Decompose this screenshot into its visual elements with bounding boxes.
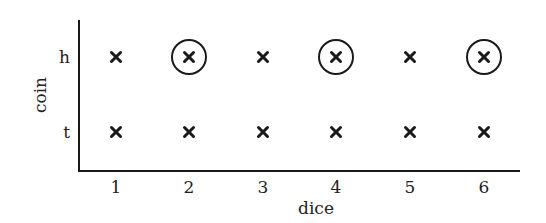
data-point-3-h bbox=[259, 53, 268, 62]
x-tick-6: 6 bbox=[479, 179, 490, 196]
data-points bbox=[112, 40, 502, 137]
data-point-1-h bbox=[112, 53, 121, 62]
data-point-1-t bbox=[112, 128, 121, 137]
data-point-4-t bbox=[332, 128, 341, 137]
x-tick-5: 5 bbox=[405, 179, 416, 196]
data-point-5-t bbox=[406, 128, 415, 137]
data-point-5-h bbox=[406, 53, 415, 62]
x-axis-label: dice bbox=[298, 200, 334, 217]
data-point-4-h bbox=[319, 40, 353, 74]
y-tick-t: t bbox=[63, 124, 70, 141]
data-point-2-t bbox=[185, 128, 194, 137]
x-tick-1: 1 bbox=[111, 179, 122, 196]
x-tick-3: 3 bbox=[258, 179, 269, 196]
data-point-2-h bbox=[172, 40, 206, 74]
data-point-6-t bbox=[480, 128, 489, 137]
chart-canvas bbox=[0, 0, 546, 223]
data-point-3-t bbox=[259, 128, 268, 137]
y-axis-label: coin bbox=[32, 77, 49, 113]
x-tick-2: 2 bbox=[184, 179, 195, 196]
data-point-6-h bbox=[467, 40, 501, 74]
x-tick-4: 4 bbox=[331, 179, 342, 196]
y-tick-h: h bbox=[59, 49, 70, 66]
